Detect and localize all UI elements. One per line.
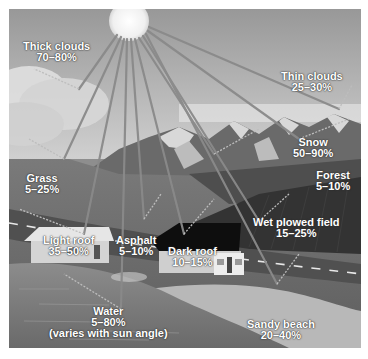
grass-value: 5–25% [25, 184, 59, 195]
label-wet-plowed-field: Wet plowed field 15–25% [253, 217, 340, 239]
forest-value: 5–10% [316, 181, 350, 192]
snow-value: 50–90% [293, 148, 333, 159]
label-grass: Grass 5–25% [25, 173, 59, 195]
label-water: Water 5–80% (varies with sun angle) [49, 306, 168, 339]
sandy-beach-value: 20–40% [247, 330, 315, 341]
light-roof-value: 35–50% [43, 246, 94, 257]
label-light-roof: Light roof 35–50% [43, 235, 94, 257]
label-forest: Forest 5–10% [316, 170, 350, 192]
label-thick-clouds: Thick clouds 70–80% [23, 41, 90, 63]
label-dark-roof: Dark roof 10–15% [168, 246, 217, 268]
wet-plowed-field-value: 15–25% [253, 228, 340, 239]
dark-roof-value: 10–15% [168, 257, 217, 268]
label-thin-clouds: Thin clouds 25–30% [281, 71, 343, 93]
label-asphalt: Asphalt 5–10% [116, 235, 156, 257]
asphalt-value: 5–10% [116, 246, 156, 257]
thick-clouds-value: 70–80% [23, 52, 90, 63]
label-snow: Snow 50–90% [293, 137, 333, 159]
albedo-diagram: Thick clouds 70–80% Thin clouds 25–30% S… [9, 9, 361, 348]
thin-clouds-value: 25–30% [281, 82, 343, 93]
water-note: (varies with sun angle) [49, 328, 168, 339]
label-sandy-beach: Sandy beach 20–40% [247, 319, 315, 341]
